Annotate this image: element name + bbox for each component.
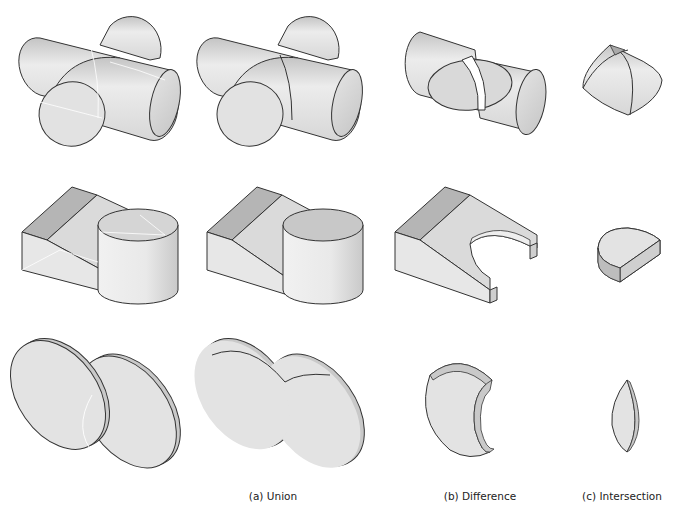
row-wedge-difference — [395, 187, 537, 303]
row-cylinders-union — [197, 17, 368, 154]
caption-union: (a) Union — [249, 490, 297, 502]
row-wedge-operands — [22, 187, 178, 304]
row-cylinders-intersection — [583, 45, 662, 115]
row-discs-intersection — [612, 380, 639, 452]
row-cylinders-operands — [19, 17, 186, 154]
row-cylinders-difference — [405, 32, 550, 137]
row-wedge-intersection — [598, 228, 660, 282]
row-discs-difference — [426, 364, 495, 457]
row-discs-union — [175, 321, 385, 486]
row-discs-operands — [0, 321, 200, 486]
row-wedge-union — [207, 187, 363, 304]
caption-intersection: (c) Intersection — [582, 490, 662, 502]
caption-difference: (b) Difference — [444, 490, 516, 502]
boolean-operations-figure — [0, 0, 675, 519]
